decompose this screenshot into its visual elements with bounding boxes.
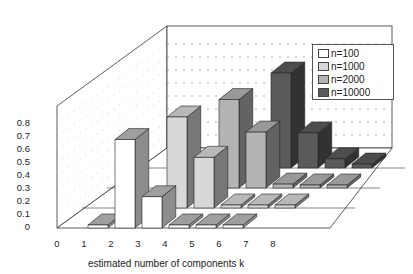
x-tick: 7 bbox=[240, 238, 252, 249]
y-tick: 0 bbox=[4, 221, 30, 232]
legend-label: n=10000 bbox=[331, 87, 370, 98]
y-tick: 0.8 bbox=[4, 117, 30, 128]
legend-item: n=2000 bbox=[318, 73, 393, 86]
x-tick: 0 bbox=[51, 238, 63, 249]
legend-swatch bbox=[318, 88, 329, 97]
legend-item: n=10000 bbox=[318, 86, 393, 99]
y-tick: 0.5 bbox=[4, 156, 30, 167]
legend-label: n=1000 bbox=[331, 61, 365, 72]
x-tick: 2 bbox=[105, 238, 117, 249]
y-tick: 0.2 bbox=[4, 195, 30, 206]
y-tick: 0.1 bbox=[4, 208, 30, 219]
x-tick: 8 bbox=[267, 238, 279, 249]
x-tick: 6 bbox=[213, 238, 225, 249]
x-tick: 5 bbox=[186, 238, 198, 249]
x-tick: 1 bbox=[78, 238, 90, 249]
x-axis-label: estimated number of components k bbox=[88, 258, 244, 269]
legend-label: n=2000 bbox=[331, 74, 365, 85]
y-tick: 0.4 bbox=[4, 169, 30, 180]
y-tick: 0.3 bbox=[4, 182, 30, 193]
legend-swatch bbox=[318, 62, 329, 71]
legend-item: n=1000 bbox=[318, 60, 393, 73]
y-tick: 0.6 bbox=[4, 143, 30, 154]
legend-label: n=100 bbox=[331, 48, 359, 59]
legend: n=100 n=1000 n=2000 n=10000 bbox=[312, 44, 394, 100]
x-tick: 4 bbox=[159, 238, 171, 249]
legend-item: n=100 bbox=[318, 47, 393, 60]
legend-swatch bbox=[318, 49, 329, 58]
x-tick: 3 bbox=[132, 238, 144, 249]
chart-3d-bar bbox=[0, 0, 413, 274]
y-tick: 0.7 bbox=[4, 130, 30, 141]
legend-swatch bbox=[318, 75, 329, 84]
